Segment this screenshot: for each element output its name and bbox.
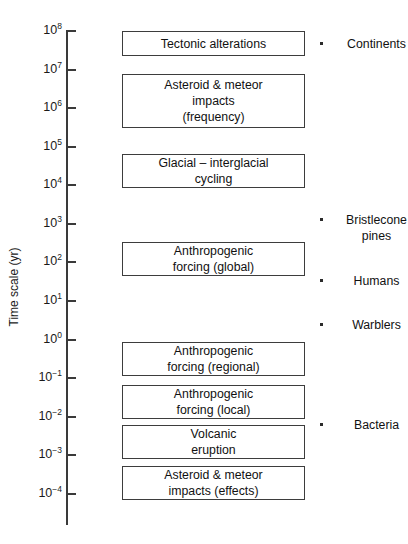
reference-entry-bristlecone-pines: Bristleconepines — [320, 212, 408, 244]
process-box-label: (frequency) — [182, 109, 244, 125]
y-tick-mark — [66, 339, 76, 341]
tick-exponent: 6 — [57, 98, 62, 108]
y-tick-label: 10−2 — [16, 410, 62, 423]
reference-label: Bristlecone — [345, 212, 408, 228]
y-tick-mark — [66, 223, 76, 225]
y-tick-mark — [66, 146, 76, 148]
tick-base: 10 — [43, 139, 57, 153]
process-box-label: Anthropogenic — [174, 243, 253, 259]
tick-exponent: −1 — [52, 368, 62, 378]
y-tick-label: 108 — [16, 24, 62, 37]
process-box-label: Volcanic — [191, 426, 237, 442]
process-box-anthropogenic-forcing-global: Anthropogenicforcing (global) — [122, 242, 305, 276]
bullet-icon — [320, 42, 323, 45]
y-tick-mark — [66, 261, 76, 263]
y-tick-label: 103 — [16, 217, 62, 230]
y-tick-label: 102 — [16, 255, 62, 268]
process-box-label: forcing (global) — [173, 259, 254, 275]
y-tick-mark — [66, 30, 76, 32]
y-axis-line — [66, 31, 68, 525]
tick-exponent: −4 — [52, 484, 62, 494]
process-box-label: Anthropogenic — [174, 343, 253, 359]
process-box-glacial-interglacial-cycling: Glacial – interglacialcycling — [122, 154, 305, 188]
y-tick-label: 105 — [16, 140, 62, 153]
process-box-label: eruption — [191, 442, 235, 458]
process-box-label: forcing (regional) — [167, 359, 259, 375]
process-box-tectonic-alterations: Tectonic alterations — [122, 31, 305, 56]
reference-entry-humans: Humans — [320, 273, 408, 289]
process-box-label: Asteroid & meteor — [164, 77, 262, 93]
tick-exponent: 2 — [57, 252, 62, 262]
tick-base: 10 — [38, 486, 52, 500]
tick-exponent: −2 — [52, 407, 62, 417]
y-tick-mark — [66, 300, 76, 302]
reference-entry-bacteria: Bacteria — [320, 417, 408, 433]
process-box-asteroid-meteor-impacts-frequency: Asteroid & meteorimpacts(frequency) — [122, 74, 305, 128]
y-tick-mark — [66, 69, 76, 71]
reference-label: Warblers — [345, 317, 408, 333]
process-box-anthropogenic-forcing-local: Anthropogenicforcing (local) — [122, 385, 305, 419]
y-tick-mark — [66, 416, 76, 418]
bullet-icon — [320, 279, 323, 282]
process-box-label: Glacial – interglacial — [158, 155, 268, 171]
y-tick-mark — [66, 377, 76, 379]
reference-label: Continents — [345, 36, 408, 52]
y-tick-label: 106 — [16, 101, 62, 114]
tick-exponent: 5 — [57, 137, 62, 147]
tick-exponent: 8 — [57, 21, 62, 31]
tick-base: 10 — [43, 23, 57, 37]
bullet-icon — [320, 323, 323, 326]
y-tick-label: 107 — [16, 63, 62, 76]
y-tick-label: 100 — [16, 333, 62, 346]
y-tick-label: 104 — [16, 178, 62, 191]
tick-base: 10 — [43, 332, 57, 346]
y-tick-mark — [66, 107, 76, 109]
process-box-asteroid-meteor-impacts-effects: Asteroid & meteorimpacts (effects) — [122, 466, 305, 500]
tick-base: 10 — [43, 62, 57, 76]
tick-exponent: 3 — [57, 214, 62, 224]
y-tick-mark — [66, 493, 76, 495]
reference-label: pines — [345, 228, 408, 244]
y-tick-mark — [66, 184, 76, 186]
tick-exponent: −3 — [52, 445, 62, 455]
tick-exponent: 1 — [57, 291, 62, 301]
tick-base: 10 — [43, 216, 57, 230]
tick-base: 10 — [38, 409, 52, 423]
reference-entry-continents: Continents — [320, 36, 408, 52]
tick-exponent: 0 — [57, 330, 62, 340]
y-tick-mark — [66, 454, 76, 456]
y-tick-label: 10−4 — [16, 487, 62, 500]
process-box-label: Tectonic alterations — [161, 36, 266, 52]
process-box-label: Anthropogenic — [174, 386, 253, 402]
tick-base: 10 — [38, 370, 52, 384]
y-tick-label: 10−3 — [16, 448, 62, 461]
process-box-label: Asteroid & meteor — [164, 467, 262, 483]
tick-base: 10 — [43, 177, 57, 191]
tick-exponent: 7 — [57, 60, 62, 70]
process-box-label: forcing (local) — [177, 402, 251, 418]
tick-base: 10 — [43, 100, 57, 114]
process-box-label: impacts — [192, 93, 234, 109]
process-box-anthropogenic-forcing-regional: Anthropogenicforcing (regional) — [122, 342, 305, 376]
process-box-label: cycling — [195, 171, 233, 187]
y-tick-label: 101 — [16, 294, 62, 307]
reference-label: Humans — [345, 273, 408, 289]
tick-base: 10 — [43, 254, 57, 268]
time-scale-figure: Time scale (yr) 108107106105104103102101… — [0, 0, 408, 544]
bullet-icon — [320, 423, 323, 426]
process-box-volcanic-eruption: Volcaniceruption — [122, 425, 305, 459]
tick-base: 10 — [38, 447, 52, 461]
reference-entry-warblers: Warblers — [320, 317, 408, 333]
tick-base: 10 — [43, 293, 57, 307]
y-tick-label: 10−1 — [16, 371, 62, 384]
bullet-icon — [320, 218, 323, 221]
reference-label: Bacteria — [345, 417, 408, 433]
y-axis-title: Time scale (yr) — [7, 227, 21, 347]
process-box-label: impacts (effects) — [169, 483, 259, 499]
tick-exponent: 4 — [57, 175, 62, 185]
